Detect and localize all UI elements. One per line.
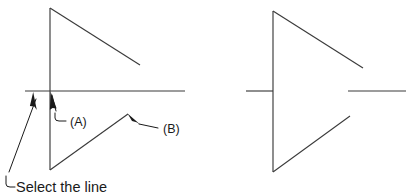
right-lower-diagonal-line[interactable] [273,116,350,172]
annotation-b-label: (B) [163,122,180,136]
annotation-a-label: (A) [70,115,87,129]
annotation-select-the-line: Select the line [6,92,107,195]
after-panel [246,11,406,172]
caption-label: Select the line [16,179,107,195]
annotation-a: (A) [50,92,87,129]
annotation-b-arrowhead-icon [128,114,141,125]
right-upper-diagonal-line[interactable] [273,11,363,68]
annotation-b: (B) [128,114,180,136]
left-lower-diagonal-line[interactable] [50,114,128,170]
annotation-a-leader-line [55,113,66,121]
caption-leader-line [6,176,15,187]
before-panel: (A) (B) Select the line [6,8,185,195]
annotation-a-arrowhead-icon [50,92,57,110]
line-trim-diagram: (A) (B) Select the line [0,0,406,196]
annotation-b-leader-line [139,124,158,128]
diagram-canvas: (A) (B) Select the line [0,0,406,196]
left-upper-diagonal-line[interactable] [50,8,140,65]
caption-arrow-shaft [9,99,36,172]
